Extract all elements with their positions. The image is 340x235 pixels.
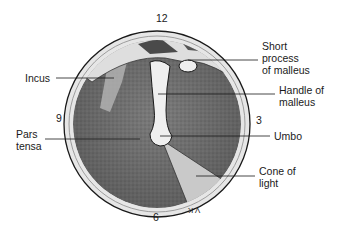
- label-short-process: Short process of malleus: [262, 40, 310, 76]
- label-pars-tensa: Pars tensa: [16, 128, 42, 152]
- clock-12: 12: [156, 12, 168, 24]
- label-umbo: Umbo: [274, 130, 302, 142]
- clock-6: 6: [153, 211, 159, 223]
- label-cone-of-light: Cone of light: [259, 165, 296, 189]
- diagram: 12 3 6 9 Incus Short process of malleus …: [0, 0, 340, 235]
- artist-signature: V.K: [188, 204, 200, 216]
- label-incus: Incus: [25, 72, 50, 84]
- malleus-short-process: [179, 60, 197, 72]
- clock-3: 3: [256, 114, 262, 126]
- clock-9: 9: [56, 112, 62, 124]
- label-handle-of-malleus: Handle of malleus: [279, 84, 324, 108]
- tympanic-membrane-illustration: [0, 0, 340, 235]
